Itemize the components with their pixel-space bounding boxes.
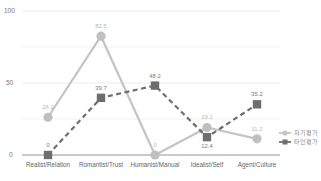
- data-label: 0: [46, 142, 49, 148]
- x-label-realist: Realist/Relation: [26, 161, 71, 168]
- y-tick-50: 50: [6, 79, 14, 86]
- x-label-humanist: Humanist/Manual: [131, 161, 180, 168]
- square-marker-icon: [97, 94, 105, 102]
- data-label: 48.2: [149, 73, 160, 79]
- square-marker-icon: [203, 133, 211, 141]
- data-label: 12.4: [201, 143, 213, 149]
- circle-marker-icon: [202, 123, 211, 132]
- series-self-evaluation: 26.282.5019.111.2: [42, 23, 262, 159]
- square-marker-icon: [283, 140, 288, 145]
- data-label: 26.2: [42, 104, 53, 110]
- data-label: 19.1: [201, 114, 212, 120]
- legend: 자기평가 타인평가: [279, 129, 318, 146]
- data-label: 0: [153, 142, 156, 148]
- legend-item-other[interactable]: 타인평가: [279, 138, 318, 146]
- circle-marker-icon: [96, 32, 105, 41]
- data-label: 82.5: [95, 23, 106, 29]
- square-marker-icon: [44, 151, 52, 159]
- line-chart: 100 50 0 Realist/Relation Romantist/Trus…: [0, 0, 321, 181]
- square-marker-icon: [151, 81, 159, 89]
- x-label-agent: Agent/Culture: [238, 161, 277, 169]
- self-evaluation-line: [48, 36, 257, 155]
- data-label: 11.2: [252, 126, 263, 132]
- circle-marker-icon: [252, 134, 261, 143]
- legend-label-other: 타인평가: [294, 138, 318, 146]
- x-label-idealist: Idealist/Self: [191, 161, 224, 168]
- x-axis-labels: Realist/Relation Romantist/Trust Humanis…: [26, 161, 277, 169]
- data-label: 39.7: [95, 85, 106, 91]
- square-marker-icon: [253, 100, 261, 108]
- y-tick-0: 0: [9, 151, 13, 158]
- circle-marker-icon: [150, 150, 159, 159]
- y-axis: 100 50 0: [4, 7, 15, 158]
- y-tick-100: 100: [4, 7, 15, 14]
- circle-marker-icon: [282, 130, 287, 135]
- x-label-romantist: Romantist/Trust: [79, 161, 123, 168]
- legend-label-self: 자기평가: [294, 129, 318, 137]
- legend-item-self[interactable]: 자기평가: [279, 129, 318, 137]
- data-label: 35.2: [251, 91, 262, 97]
- circle-marker-icon: [43, 113, 52, 122]
